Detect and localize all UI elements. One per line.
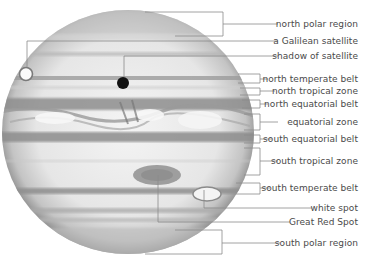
label-north-tropical-zone: north tropical zone xyxy=(272,86,358,96)
label-south-temperate-belt: south temperate belt xyxy=(262,183,359,193)
jupiter-planet xyxy=(0,8,260,258)
label-equatorial-zone: equatorial zone xyxy=(287,117,358,127)
satellite-shadow-marker xyxy=(117,77,129,89)
label-great-red-spot: Great Red Spot xyxy=(289,217,358,227)
label-white-spot: white spot xyxy=(311,203,358,213)
label-south-tropical-zone: south tropical zone xyxy=(271,156,358,166)
label-north-equatorial-belt: north equatorial belt xyxy=(264,99,358,109)
label-shadow-of-satellite: shadow of satellite xyxy=(272,51,358,61)
label-south-equatorial-belt: south equatorial belt xyxy=(263,134,358,144)
label-north-polar-region: north polar region xyxy=(276,19,358,29)
galilean-satellite-marker xyxy=(20,68,33,81)
label-south-polar-region: south polar region xyxy=(275,238,358,248)
jupiter-diagram: north polar region a Galilean satellite … xyxy=(0,0,365,259)
label-galilean-satellite: a Galilean satellite xyxy=(273,36,358,46)
label-north-temperate-belt: north temperate belt xyxy=(262,74,358,84)
